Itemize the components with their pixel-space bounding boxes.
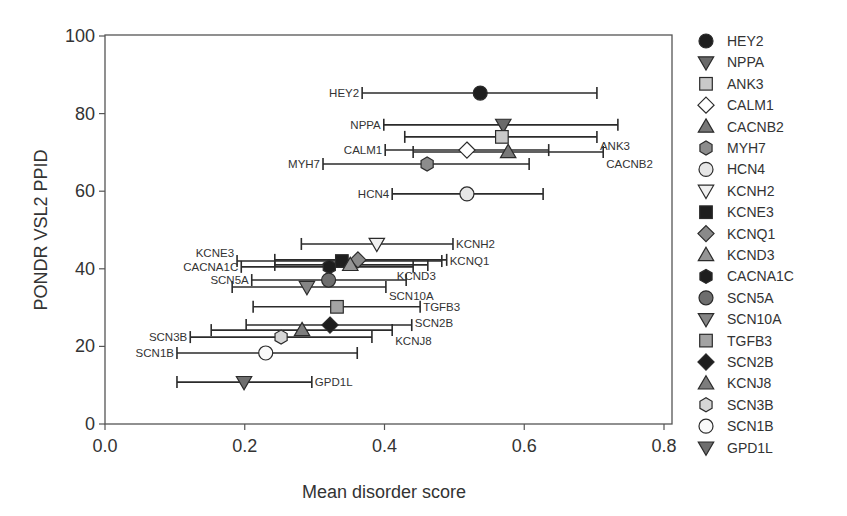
point-label-hey2: HEY2 xyxy=(329,87,359,99)
y-tick-label: 60 xyxy=(75,181,95,201)
legend-kcnj8-triangle-up-icon xyxy=(698,376,713,389)
marker-gpd1l-triangle-down-icon xyxy=(236,376,251,389)
point-label-scn2b: SCN2B xyxy=(415,317,454,329)
legend-myh7-hexagon-icon xyxy=(700,141,712,155)
y-axis: 020406080100 xyxy=(65,26,105,434)
legend-item-myh7: MYH7 xyxy=(700,140,766,156)
legend-item-cacna1c: CACNA1C xyxy=(700,268,794,284)
legend-kcnh2-triangle-down-icon xyxy=(698,185,713,198)
y-tick-label: 0 xyxy=(85,414,95,434)
point-label-kcnj8: KCNJ8 xyxy=(395,335,431,347)
point-label-scn1b: SCN1B xyxy=(136,347,175,359)
scatter-plot: 020406080100 0.00.20.40.60.8 HEY2NPPAANK… xyxy=(0,0,847,516)
y-axis-title: PONDR VSL2 PPID xyxy=(31,149,51,310)
legend-item-ank3: ANK3 xyxy=(700,76,764,92)
legend-item-hcn4: HCN4 xyxy=(699,161,765,177)
legend-calm1-diamond-icon xyxy=(698,97,714,113)
legend-item-gpd1l: GPD1L xyxy=(698,440,773,456)
marker-cacna1c-hexagon-icon xyxy=(323,260,335,274)
legend-label: SCN1B xyxy=(727,418,774,434)
marker-hey2-circle-icon xyxy=(473,86,487,100)
point-label-cacna1c: CACNA1C xyxy=(183,261,238,273)
legend-label: SCN3B xyxy=(727,397,774,413)
legend-item-scn3b: SCN3B xyxy=(700,397,774,413)
legend-gpd1l-triangle-down-icon xyxy=(698,442,713,455)
legend-label: CACNA1C xyxy=(727,268,794,284)
legend-item-kcnh2: KCNH2 xyxy=(698,183,774,199)
point-label-ank3: ANK3 xyxy=(600,140,630,152)
x-axis: 0.00.20.40.60.8 xyxy=(92,424,676,456)
marker-cacnb2-triangle-up-icon xyxy=(500,144,515,157)
marker-tgfb3-square-icon xyxy=(331,301,344,314)
marker-myh7-hexagon-icon xyxy=(421,157,433,171)
legend-label: GPD1L xyxy=(727,440,773,456)
legend-label: NPPA xyxy=(727,54,765,70)
legend-item-calm1: CALM1 xyxy=(698,97,774,113)
y-tick-label: 40 xyxy=(75,259,95,279)
legend-kcnd3-triangle-up-icon xyxy=(698,247,713,260)
marker-calm1-diamond-icon xyxy=(459,142,475,158)
point-label-kcne3: KCNE3 xyxy=(196,247,234,259)
legend-tgfb3-square-icon xyxy=(700,334,713,347)
legend-item-scn10a: SCN10A xyxy=(698,311,782,327)
x-tick-label: 0.2 xyxy=(232,436,257,456)
legend-scn5a-circle-icon xyxy=(699,291,713,305)
point-label-cacnb2: CACNB2 xyxy=(606,158,653,170)
legend-label: SCN10A xyxy=(727,311,782,327)
y-tick-label: 80 xyxy=(75,104,95,124)
point-label-tgfb3: TGFB3 xyxy=(423,301,460,313)
legend-item-hey2: HEY2 xyxy=(699,33,764,49)
marker-scn1b-circle-icon xyxy=(259,346,273,360)
y-tick-label: 100 xyxy=(65,26,95,46)
legend-kcnq1-diamond-icon xyxy=(698,226,714,242)
legend-label: KCNJ8 xyxy=(727,375,772,391)
legend-label: HCN4 xyxy=(727,161,765,177)
legend-cacnb2-triangle-up-icon xyxy=(698,119,713,132)
marker-hcn4-circle-icon xyxy=(460,187,474,201)
marker-kcnh2-triangle-down-icon xyxy=(369,238,384,251)
point-label-scn3b: SCN3B xyxy=(149,331,188,343)
legend-label: HEY2 xyxy=(727,33,764,49)
chart: 020406080100 0.00.20.40.60.8 HEY2NPPAANK… xyxy=(0,0,847,516)
y-tick-label: 20 xyxy=(75,336,95,356)
legend-item-kcne3: KCNE3 xyxy=(700,204,774,220)
legend-item-kcnq1: KCNQ1 xyxy=(698,226,775,242)
x-tick-label: 0.0 xyxy=(92,436,117,456)
legend-nppa-triangle-down-icon xyxy=(698,57,713,70)
legend-label: CALM1 xyxy=(727,97,774,113)
legend-hcn4-circle-icon xyxy=(699,162,713,176)
legend-label: KCNH2 xyxy=(727,183,775,199)
legend-item-cacnb2: CACNB2 xyxy=(698,119,784,135)
x-tick-label: 0.6 xyxy=(512,436,537,456)
point-label-scn5a: SCN5A xyxy=(210,274,249,286)
legend-label: KCND3 xyxy=(727,247,775,263)
point-label-calm1: CALM1 xyxy=(344,144,382,156)
legend-item-scn2b: SCN2B xyxy=(698,354,774,370)
point-label-nppa: NPPA xyxy=(350,119,381,131)
x-tick-label: 0.8 xyxy=(651,436,676,456)
point-label-kcnd3: KCND3 xyxy=(397,270,436,282)
legend-label: CACNB2 xyxy=(727,119,784,135)
legend: HEY2NPPAANK3CALM1CACNB2MYH7HCN4KCNH2KCNE… xyxy=(698,33,794,456)
point-label-myh7: MYH7 xyxy=(288,158,320,170)
legend-item-scn5a: SCN5A xyxy=(699,290,774,306)
point-label-hcn4: HCN4 xyxy=(358,188,390,200)
legend-scn1b-circle-icon xyxy=(699,419,713,433)
legend-label: ANK3 xyxy=(727,76,764,92)
point-label-kcnh2: KCNH2 xyxy=(456,238,495,250)
legend-cacna1c-hexagon-icon xyxy=(700,269,712,283)
marker-scn3b-hexagon-icon xyxy=(275,330,287,344)
marker-scn5a-circle-icon xyxy=(322,273,336,287)
point-labels: HEY2NPPAANK3CALM1CACNB2MYH7HCN4KCNH2KCNE… xyxy=(136,87,653,388)
legend-item-tgfb3: TGFB3 xyxy=(700,333,773,349)
x-axis-title: Mean disorder score xyxy=(302,482,466,502)
legend-label: KCNQ1 xyxy=(727,226,775,242)
point-label-kcnq1: KCNQ1 xyxy=(450,255,490,267)
legend-scn2b-diamond-icon xyxy=(698,354,714,370)
marker-scn10a-triangle-down-icon xyxy=(299,281,314,294)
legend-label: TGFB3 xyxy=(727,333,772,349)
x-tick-label: 0.4 xyxy=(372,436,397,456)
legend-item-nppa: NPPA xyxy=(698,54,764,70)
legend-item-scn1b: SCN1B xyxy=(699,418,774,434)
legend-label: SCN2B xyxy=(727,354,774,370)
